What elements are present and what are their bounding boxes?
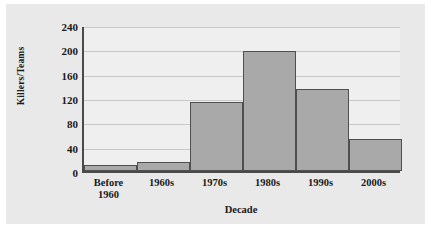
x-axis-tick-label-line: 1970s	[188, 177, 241, 189]
x-axis-tick-label: 2000s	[347, 177, 400, 189]
y-axis-tick-label: 120	[34, 95, 78, 106]
x-axis-tick-label: 1980s	[241, 177, 294, 189]
bar-series	[84, 27, 400, 171]
plot-wrap	[82, 27, 400, 173]
y-axis-tick-label: 40	[34, 143, 78, 154]
x-axis-tick-label-line: 1990s	[294, 177, 347, 189]
y-axis-tick-label: 240	[34, 22, 78, 33]
x-axis-tick-label: 1970s	[188, 177, 241, 189]
x-axis-tick-label-line: 1980s	[241, 177, 294, 189]
x-axis-tick-label-line: 1960s	[135, 177, 188, 189]
x-axis-title: Decade	[82, 204, 400, 215]
bar	[190, 102, 243, 171]
x-axis-tick-label: Before1960	[82, 177, 135, 201]
x-axis-tick-label-line: Before	[82, 177, 135, 189]
bar	[349, 139, 402, 171]
y-axis-tick-labels: 04080120160200240	[28, 27, 78, 173]
bar	[84, 165, 137, 171]
plot-area	[82, 27, 400, 173]
y-axis-tick-label: 200	[34, 46, 78, 57]
bar	[243, 51, 296, 171]
x-axis-tick-label: 1990s	[294, 177, 347, 189]
x-axis-tick-label: 1960s	[135, 177, 188, 189]
y-axis-tick-label: 0	[34, 168, 78, 179]
x-axis-tick-label-line: 1960	[82, 189, 135, 201]
y-axis-title: Killers/Teams	[16, 26, 26, 126]
y-axis-tick-label: 80	[34, 119, 78, 130]
chart-figure: Killers/Teams 04080120160200240 Before19…	[6, 4, 425, 224]
y-axis-tick-label: 160	[34, 70, 78, 81]
x-axis-tick-label-line: 2000s	[347, 177, 400, 189]
bar	[296, 89, 349, 171]
bar	[137, 162, 190, 171]
